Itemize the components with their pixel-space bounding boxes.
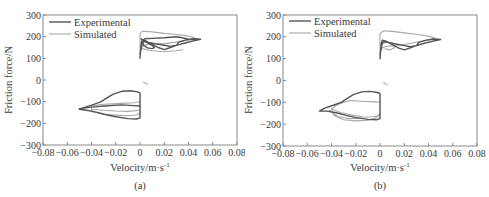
y-tick-label: −200: [20, 118, 41, 129]
y-tick-label: 0: [276, 75, 281, 86]
x-tick-label: 0: [138, 147, 143, 158]
x-tick-label: −0.06: [296, 148, 319, 159]
legend-experimental-label: Experimental: [74, 17, 131, 28]
y-tick-label: −300: [260, 141, 281, 152]
chart-b-plot: −0.08−0.06−0.04−0.0200.020.040.060.08300…: [260, 10, 485, 160]
legend-simulated-label: Simulated: [74, 29, 117, 40]
chart-b-svg: −0.08−0.06−0.04−0.0200.020.040.060.08300…: [244, 0, 489, 197]
chart-b-panel-label: (b): [374, 180, 387, 192]
y-tick-label: 300: [266, 10, 281, 21]
y-tick-label: 100: [266, 53, 281, 64]
chart-a-legend: Experimental Simulated: [49, 17, 131, 40]
chart-a-xlabel: Velocity/m·s-1: [110, 161, 170, 173]
x-tick-label: −0.04: [320, 148, 343, 159]
chart-panel-a: −0.08−0.06−0.04−0.0200.020.040.060.08300…: [0, 0, 245, 197]
legend-simulated-label: Simulated: [314, 28, 357, 39]
chart-b-legend: Experimental Simulated: [289, 16, 371, 39]
y-tick-label: 300: [26, 10, 41, 21]
x-tick-label: 0: [378, 148, 383, 159]
x-tick-label: 0.06: [444, 148, 462, 159]
chart-a-svg: −0.08−0.06−0.04−0.0200.020.040.060.08300…: [0, 0, 245, 197]
y-tick-label: 100: [26, 53, 41, 64]
series-simulated: [92, 109, 141, 111]
chart-a-ylabel: Friction force/N: [3, 46, 14, 114]
series-simulated: [144, 82, 148, 84]
x-tick-label: 0.06: [204, 147, 222, 158]
chart-a-panel-label: (a): [134, 180, 146, 192]
y-tick-label: 200: [26, 31, 41, 42]
x-tick-label: 0.08: [228, 147, 245, 158]
series-simulated: [384, 83, 388, 85]
y-tick-label: −200: [260, 119, 281, 130]
x-tick-label: −0.06: [56, 147, 79, 158]
chart-panel-b: −0.08−0.06−0.04−0.0200.020.040.060.08300…: [244, 0, 489, 197]
x-tick-label: −0.02: [104, 147, 127, 158]
series-simulated: [92, 102, 141, 116]
x-tick-label: −0.04: [80, 147, 103, 158]
chart-b-ylabel: Friction force/N: [244, 46, 254, 114]
y-tick-label: −100: [20, 96, 41, 107]
y-tick-label: 0: [36, 75, 41, 86]
series-experimental: [380, 39, 441, 59]
x-tick-label: 0.02: [396, 148, 414, 159]
chart-a-plot: −0.08−0.06−0.04−0.0200.020.040.060.08300…: [20, 10, 245, 159]
x-tick-label: 0.02: [156, 147, 174, 158]
chart-b-xlabel: Velocity/m·s-1: [350, 161, 410, 173]
x-tick-label: 0.04: [420, 148, 438, 159]
y-tick-label: −300: [20, 140, 41, 151]
x-tick-label: 0.08: [468, 148, 486, 159]
y-tick-label: −100: [260, 97, 281, 108]
y-tick-label: 200: [266, 31, 281, 42]
x-tick-label: 0.04: [180, 147, 198, 158]
legend-experimental-label: Experimental: [314, 16, 371, 27]
x-tick-label: −0.02: [344, 148, 367, 159]
series-experimental: [319, 91, 380, 119]
